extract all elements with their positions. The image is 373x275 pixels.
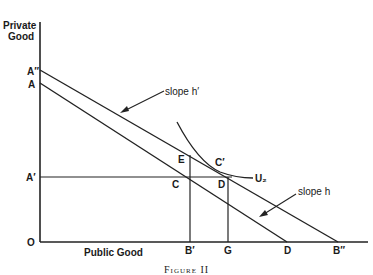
slope-h-prime-arrow <box>124 91 164 111</box>
annotation-slope-h-prime: slope h′ <box>165 87 199 97</box>
point-label-c: C <box>172 180 179 190</box>
origin-label: O <box>27 238 35 248</box>
y-axis-label-line2: Good <box>8 32 34 42</box>
arrowhead-icon <box>259 210 268 217</box>
point-label-b-double-prime: B″ <box>333 246 345 256</box>
point-label-a: A <box>28 80 35 90</box>
point-label-b-prime: B′ <box>185 246 195 256</box>
point-label-d-axis: D <box>284 246 291 256</box>
slope-h-arrow <box>264 194 296 214</box>
point-label-c-prime: C′ <box>215 158 225 168</box>
y-axis-label-line1: Private <box>3 21 36 31</box>
arrowhead-icon <box>120 106 129 113</box>
annotation-slope-h: slope h <box>298 187 330 197</box>
figure-caption: Figure II <box>164 264 209 275</box>
budget-line-a-d <box>40 83 287 242</box>
indifference-curve-u2 <box>177 122 253 178</box>
diagram-canvas <box>0 0 373 275</box>
point-label-d-upper: D <box>218 180 225 190</box>
point-label-a-double-prime: A″ <box>27 67 39 77</box>
point-label-a-prime: A′ <box>26 173 36 183</box>
point-label-g: G <box>224 246 232 256</box>
curve-label-u2: U₂ <box>255 174 267 184</box>
point-label-e: E <box>178 155 185 165</box>
x-axis-label: Public Good <box>84 248 143 258</box>
